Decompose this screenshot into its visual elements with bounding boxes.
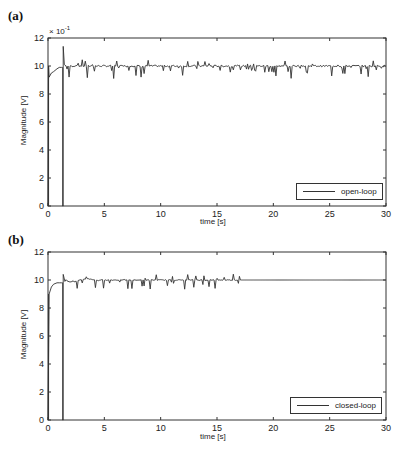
y-tick-label: 8 [39, 303, 44, 313]
x-tick-label: 10 [156, 423, 166, 433]
x-axis-label-b: time [s] [200, 432, 226, 441]
x-tick-label: 20 [268, 423, 278, 433]
y-tick-label: 2 [39, 387, 44, 397]
y-tick-label: 6 [39, 331, 44, 341]
y-axis-label-b: Magnitude [V] [19, 300, 28, 370]
plot-area [48, 252, 386, 420]
x-tick-label: 30 [381, 423, 391, 433]
legend-line-icon [297, 405, 329, 406]
legend-label: closed-loop [335, 401, 376, 410]
chart-b-svg: 051015202530024681012 [0, 0, 409, 460]
legend-b: closed-loop [290, 397, 382, 414]
x-tick-label: 25 [325, 423, 335, 433]
y-tick-label: 12 [34, 247, 44, 257]
panel-b: 051015202530024681012 (b) closed-loop ti… [0, 0, 409, 460]
panel-label-b: (b) [8, 232, 24, 248]
y-tick-label: 10 [34, 275, 44, 285]
y-tick-label: 4 [39, 359, 44, 369]
x-tick-label: 5 [102, 423, 107, 433]
x-tick-label: 0 [45, 423, 50, 433]
y-tick-label: 0 [39, 415, 44, 425]
